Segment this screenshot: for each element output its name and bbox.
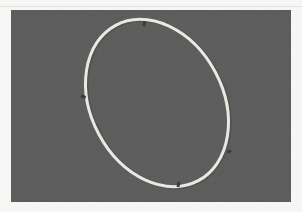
ring-illustration — [11, 10, 291, 202]
film-grain — [11, 10, 291, 202]
photo-border — [0, 0, 302, 212]
scan-edge-line — [0, 6, 302, 7]
photograph — [11, 10, 291, 202]
